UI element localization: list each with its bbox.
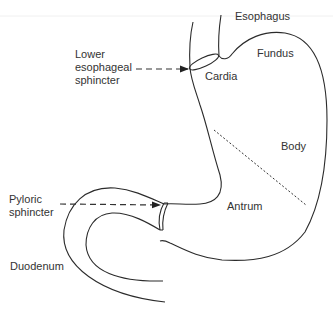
label-duodenum: Duodenum — [10, 260, 64, 272]
label-esophagus: Esophagus — [235, 10, 290, 22]
label-body: Body — [281, 140, 306, 152]
label-pyloric-line1: Pyloric — [9, 193, 42, 205]
stomach-lesser-curvature — [164, 68, 221, 204]
duodenum-inner-wall — [86, 213, 163, 281]
pyloric-ring — [159, 203, 168, 230]
stomach-diagram: Esophagus Fundus Cardia Body Antrum Duod… — [0, 0, 333, 311]
label-pyloric-line2: sphincter — [9, 206, 54, 218]
pyloric-pointer-arrow — [60, 204, 160, 205]
label-les-line3: sphincter — [75, 74, 120, 86]
label-les-line2: esophageal — [75, 61, 132, 73]
label-antrum: Antrum — [227, 200, 262, 212]
esophagus-right-wall — [219, 15, 221, 56]
label-fundus: Fundus — [257, 47, 294, 59]
esophagus-left-wall — [190, 22, 193, 68]
label-les-line1: Lower — [75, 48, 105, 60]
label-cardia: Cardia — [205, 70, 237, 82]
